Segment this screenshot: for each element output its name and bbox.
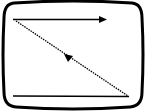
crt-raster-diagram — [0, 0, 146, 111]
scan-line-bottom — [13, 96, 129, 97]
screen-frame — [3, 1, 143, 109]
arrowhead-right-icon — [99, 16, 107, 23]
retrace-line — [16, 21, 128, 96]
arrowhead-up-left-icon — [64, 54, 73, 62]
